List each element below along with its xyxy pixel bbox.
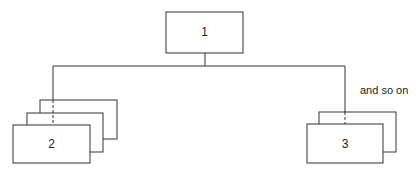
root-node-label: 1: [166, 25, 243, 39]
annotation-text: and so on: [360, 84, 408, 96]
right-node-label: 3: [307, 137, 383, 151]
left-node-label: 2: [13, 137, 90, 151]
